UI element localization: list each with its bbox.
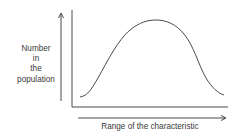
y-axis-label-line: the bbox=[8, 64, 64, 74]
y-axis-label-line: population bbox=[8, 75, 64, 85]
bell-curve bbox=[80, 20, 224, 97]
x-axis-label: Range of the characteristic bbox=[90, 122, 210, 132]
y-axis-label: Number in the population bbox=[8, 44, 64, 85]
y-axis-label-line: in bbox=[8, 54, 64, 64]
y-axis-label-line: Number bbox=[8, 44, 64, 54]
distribution-diagram: Number in the population Range of the ch… bbox=[0, 0, 241, 139]
